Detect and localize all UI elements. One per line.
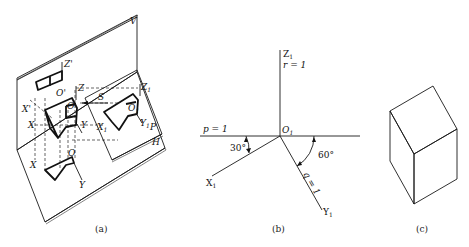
label-x1: X1 xyxy=(96,122,107,133)
label-z1: Z1 xyxy=(283,49,293,60)
label-y-h: Y xyxy=(79,180,86,190)
caption-c: (c) xyxy=(416,224,428,234)
label-z: Z xyxy=(77,83,85,93)
label-angle-30: 30° xyxy=(230,143,246,153)
caption-b: (b) xyxy=(272,224,285,234)
s-arrowhead-icon xyxy=(82,101,88,105)
label-o: O xyxy=(67,101,75,111)
label-s: S xyxy=(98,92,104,102)
label-o-prime: O' xyxy=(56,88,66,98)
label-y: Y xyxy=(81,120,88,130)
arc-arrow-icon xyxy=(312,137,316,142)
y-h-axis xyxy=(74,163,82,180)
label-y1: Y1 xyxy=(322,207,333,218)
y1-axis xyxy=(280,136,322,210)
label-r: r = 1 xyxy=(283,60,306,70)
h-projection-shape xyxy=(45,157,74,180)
caption-a: (a) xyxy=(95,224,107,234)
label-z1: Z1 xyxy=(140,82,151,93)
label-x-prime: X' xyxy=(21,104,31,114)
figure-a: V P H Z' O' X' Z O X Y S Z1 O1 X1 Y1 O X… xyxy=(17,15,166,234)
label-q: q = 1 xyxy=(301,170,322,196)
label-angle-60: 60° xyxy=(318,150,334,160)
figure-c: (c) xyxy=(390,86,457,234)
label-p: p = 1 xyxy=(203,124,228,134)
label-x: X xyxy=(27,120,35,130)
label-z-prime: Z' xyxy=(63,59,73,69)
cube-left-face xyxy=(390,111,414,204)
angle-arc-60 xyxy=(297,136,314,166)
arc-arrow-icon xyxy=(246,148,251,153)
arc-arrow-icon xyxy=(297,161,302,166)
cube-right-face xyxy=(414,129,457,204)
label-o1: O1 xyxy=(282,125,293,136)
label-o-h: O xyxy=(68,148,76,158)
figure-b: Z1 r = 1 O1 p = 1 30° 60° X1 Y1 q = 1 (b… xyxy=(200,49,360,234)
label-x-h: X xyxy=(29,160,37,170)
label-p: P xyxy=(149,122,157,132)
label-x1: X1 xyxy=(206,178,216,189)
cube-top-face xyxy=(390,86,457,154)
diagram-canvas: V P H Z' O' X' Z O X Y S Z1 O1 X1 Y1 O X… xyxy=(0,0,469,247)
label-y1: Y1 xyxy=(140,118,150,129)
plane-p xyxy=(85,70,163,162)
label-h: H xyxy=(151,137,160,147)
